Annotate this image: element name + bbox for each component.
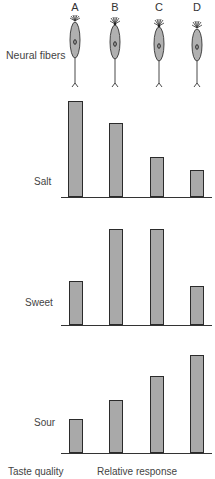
- sweet-bar-b: [109, 229, 123, 325]
- sour-bar-a: [69, 419, 83, 453]
- sour-baseline: [61, 453, 212, 454]
- salt-baseline: [61, 197, 212, 198]
- sour-label: Sour: [34, 417, 55, 428]
- taste-quality-label: Taste quality: [8, 466, 64, 477]
- neuron-b-icon: [105, 16, 125, 88]
- sweet-bar-d: [190, 286, 204, 325]
- salt-bar-b: [109, 123, 123, 197]
- fiber-label-d: D: [189, 1, 205, 13]
- neuron-a-icon: [65, 16, 85, 88]
- sour-bar-d: [190, 355, 204, 453]
- salt-bar-c: [150, 157, 164, 197]
- sour-bar-b: [109, 400, 123, 453]
- neural-fibers-label: Neural fibers: [6, 49, 66, 61]
- neuron-d-icon: [187, 16, 207, 88]
- salt-label: Salt: [34, 176, 51, 187]
- sweet-bar-c: [150, 229, 164, 325]
- sour-bar-c: [150, 376, 164, 453]
- salt-bar-a: [68, 101, 83, 197]
- relative-response-label: Relative response: [97, 466, 177, 477]
- fiber-label-c: C: [151, 1, 167, 13]
- sweet-baseline: [61, 325, 212, 326]
- neuron-c-icon: [149, 16, 169, 88]
- sweet-bar-a: [69, 281, 83, 325]
- salt-bar-d: [190, 170, 204, 197]
- fiber-label-a: A: [67, 1, 83, 13]
- sweet-label: Sweet: [25, 297, 53, 308]
- fiber-label-b: B: [107, 1, 123, 13]
